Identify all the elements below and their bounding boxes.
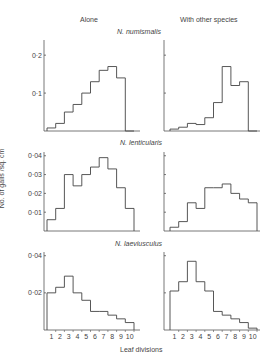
x-tick-label: 2 <box>58 333 62 340</box>
x-tick-label: 9 <box>119 333 123 340</box>
x-tick-label: 8 <box>233 333 237 340</box>
x-tick-label: 1 <box>172 333 176 340</box>
histogram-series <box>170 67 257 131</box>
x-tick-label: 5 <box>207 333 211 340</box>
x-tick-label: 3 <box>190 333 194 340</box>
y-tick-label: 0·01 <box>28 209 42 216</box>
y-tick-label: 0·04 <box>28 252 42 259</box>
x-tick-label: 3 <box>67 333 71 340</box>
x-tick-label: 4 <box>75 333 79 340</box>
histogram-series <box>170 184 257 231</box>
x-tick-label: 1 <box>49 333 53 340</box>
x-tick-label: 6 <box>216 333 220 340</box>
x-tick-label: 2 <box>181 333 185 340</box>
histogram-series <box>47 276 134 330</box>
x-tick-label: 9 <box>242 333 246 340</box>
x-tick-label: 10 <box>126 333 134 340</box>
x-tick-label: 6 <box>93 333 97 340</box>
histogram-series <box>47 158 134 231</box>
y-tick-label: 0·02 <box>28 190 42 197</box>
histogram-panels: 0·10·20·010·020·030·040·020·041234567891… <box>0 0 280 364</box>
x-tick-label: 5 <box>84 333 88 340</box>
y-tick-label: 0·1 <box>32 90 42 97</box>
histogram-series <box>170 261 257 330</box>
y-tick-label: 0·02 <box>28 289 42 296</box>
y-tick-label: 0·03 <box>28 171 42 178</box>
histogram-series <box>47 67 134 131</box>
y-tick-label: 0·04 <box>28 152 42 159</box>
y-tick-label: 0·2 <box>32 52 42 59</box>
x-tick-label: 7 <box>225 333 229 340</box>
x-tick-label: 4 <box>198 333 202 340</box>
x-tick-label: 8 <box>110 333 114 340</box>
x-tick-label: 10 <box>249 333 257 340</box>
x-tick-label: 7 <box>102 333 106 340</box>
